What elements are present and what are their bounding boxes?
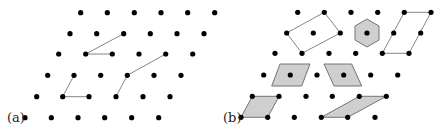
- lattice-point: [136, 51, 141, 56]
- lattice-point: [113, 94, 118, 99]
- lattice-point: [83, 51, 88, 56]
- lattice-point: [94, 31, 99, 36]
- lattice-point: [288, 72, 293, 77]
- lattice-point: [402, 10, 407, 15]
- lattice-point: [98, 73, 103, 78]
- lattice-point: [132, 10, 137, 15]
- panel-b: (b): [223, 10, 434, 125]
- lattice-point: [418, 30, 423, 35]
- lattice-point: [368, 72, 373, 77]
- lattice-point: [357, 94, 362, 99]
- lattice-point: [375, 10, 380, 15]
- lattice-segment: [116, 75, 127, 96]
- lattice-point: [272, 51, 277, 56]
- parallelogram-filled-bottom-right: [321, 96, 386, 117]
- lattice-point: [322, 10, 327, 15]
- panel-label-a: (a): [7, 110, 25, 125]
- lattice-point: [292, 115, 297, 120]
- lattice-point: [158, 10, 163, 15]
- lattice-point: [151, 73, 156, 78]
- lattice-point: [395, 72, 400, 77]
- lattice-point: [67, 31, 72, 36]
- lattice-point: [148, 31, 153, 36]
- lattice-point: [372, 115, 377, 120]
- lattice-point: [303, 94, 308, 99]
- lattice-point: [190, 51, 195, 56]
- lattice-segment: [63, 75, 74, 96]
- lattice-point: [326, 51, 331, 56]
- lattice-point: [110, 51, 115, 56]
- lattice-point: [71, 73, 76, 78]
- lattice-point: [105, 10, 110, 15]
- lattice-point: [341, 72, 346, 77]
- lattice-point: [353, 51, 358, 56]
- lattice-point: [102, 115, 107, 120]
- lattice-point: [338, 30, 343, 35]
- lattice-point: [284, 30, 289, 35]
- lattice-point: [140, 94, 145, 99]
- lattice-point: [75, 115, 80, 120]
- lattice-point: [265, 115, 270, 120]
- lattice-point: [406, 51, 411, 56]
- lattice-point: [201, 31, 206, 36]
- lattice-point: [60, 94, 65, 99]
- parallelogram-filled-bottom-left: [241, 96, 279, 117]
- lattice-point: [384, 94, 389, 99]
- lattice-point: [121, 31, 126, 36]
- lattice-point: [212, 10, 217, 15]
- lattice-point: [299, 51, 304, 56]
- lattice-point: [391, 30, 396, 35]
- lattice-point: [78, 10, 83, 15]
- lattice-point: [319, 115, 324, 120]
- lattice-point: [380, 51, 385, 56]
- lattice-point: [174, 31, 179, 36]
- lattice-point: [261, 72, 266, 77]
- lattice-point: [56, 51, 61, 56]
- lattice-point: [45, 73, 50, 78]
- lattice-point: [125, 73, 130, 78]
- parallelogram-outline-top-right: [382, 12, 431, 53]
- lattice-point: [276, 94, 281, 99]
- lattice-point: [295, 10, 300, 15]
- lattice-point: [163, 51, 168, 56]
- lattice-point: [156, 115, 161, 120]
- lattice-point: [311, 30, 316, 35]
- lattice-point: [364, 30, 369, 35]
- lattice-segment: [127, 54, 165, 75]
- lattice-point: [178, 73, 183, 78]
- lattice-point: [428, 10, 433, 15]
- lattice-point: [34, 94, 39, 99]
- lattice-point: [250, 94, 255, 99]
- lattice-point: [49, 115, 54, 120]
- lattice-point: [185, 10, 190, 15]
- lattice-point: [167, 94, 172, 99]
- lattice-point: [330, 94, 335, 99]
- lattice-point: [314, 72, 319, 77]
- lattice-segment: [86, 34, 124, 54]
- panel-a: (a): [7, 10, 217, 125]
- lattice-point: [345, 115, 350, 120]
- lattice-point: [348, 10, 353, 15]
- panel-label-b: (b): [223, 110, 241, 125]
- lattice-point: [86, 94, 91, 99]
- lattice-figure: (a) (b): [0, 0, 445, 130]
- lattice-point: [129, 115, 134, 120]
